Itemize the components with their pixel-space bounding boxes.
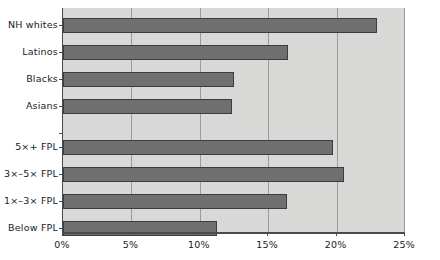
y-tick — [59, 106, 63, 107]
y-label-5x-plus-fpl: 5×+ FPL — [0, 141, 58, 152]
y-tick — [59, 79, 63, 80]
bar-row — [63, 99, 404, 114]
x-label-10pct: 10% — [188, 239, 210, 250]
bar-chart: NH whites Latinos Blacks Asians 5×+ FPL … — [0, 0, 440, 260]
x-tick — [130, 232, 131, 236]
bar-row — [63, 72, 404, 87]
bar-row — [63, 18, 404, 33]
bar-row — [63, 221, 404, 236]
bar-row — [63, 194, 404, 209]
x-tick — [404, 232, 405, 236]
bar-row — [63, 45, 404, 60]
y-tick — [59, 147, 63, 148]
y-label-latinos: Latinos — [0, 46, 58, 57]
y-tick — [59, 25, 63, 26]
bar-1x-3x-fpl — [63, 194, 287, 209]
y-label-3x-5x-fpl: 3×–5× FPL — [0, 168, 58, 179]
bar-asians — [63, 99, 232, 114]
y-label-1x-3x-fpl: 1×–3× FPL — [0, 195, 58, 206]
x-label-20pct: 20% — [325, 239, 347, 250]
y-tick — [59, 228, 63, 229]
bar-5x-plus-fpl — [63, 140, 333, 155]
x-label-0pct: 0% — [54, 239, 69, 250]
y-tick — [59, 201, 63, 202]
plot-area — [62, 8, 404, 232]
x-axis-line — [62, 232, 405, 234]
x-tick — [336, 232, 337, 236]
x-tick — [199, 232, 200, 236]
y-tick — [59, 52, 63, 53]
bar-row — [63, 140, 404, 155]
x-label-15pct: 15% — [256, 239, 278, 250]
y-tick — [59, 174, 63, 175]
y-label-nh-whites: NH whites — [0, 19, 58, 30]
y-axis-labels: NH whites Latinos Blacks Asians 5×+ FPL … — [0, 8, 58, 232]
bars-layer — [63, 8, 404, 232]
bar-blacks — [63, 72, 234, 87]
bar-nh-whites — [63, 18, 377, 33]
bar-3x-5x-fpl — [63, 167, 344, 182]
y-label-below-fpl: Below FPL — [0, 222, 58, 233]
x-tick — [267, 232, 268, 236]
bar-below-fpl — [63, 221, 217, 236]
y-label-blacks: Blacks — [0, 73, 58, 84]
bar-latinos — [63, 45, 288, 60]
x-label-5pct: 5% — [123, 239, 138, 250]
x-label-25pct: 25% — [393, 239, 415, 250]
x-tick — [62, 232, 63, 236]
y-label-asians: Asians — [0, 100, 58, 111]
bar-row — [63, 167, 404, 182]
y-tick — [59, 133, 63, 134]
gridline-25pct — [404, 8, 405, 232]
